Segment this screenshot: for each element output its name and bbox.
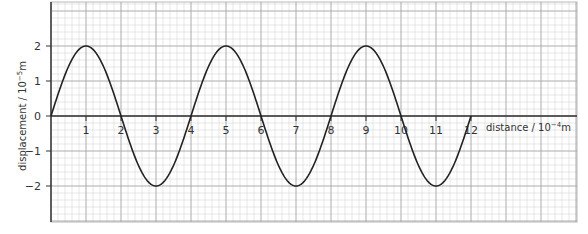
y-axis-title: displacement / 10−5m: [16, 61, 28, 171]
x-axis-title: distance / 10−4m: [486, 121, 571, 133]
y-tick-label: 2: [34, 40, 41, 53]
x-tick-label: 11: [429, 124, 443, 137]
x-tick-label: 1: [83, 124, 90, 137]
axes: [51, 2, 577, 222]
x-tick-label: 9: [363, 124, 370, 137]
wave-chart: 123456789101112210−1−2 distance / 10−4m …: [0, 0, 588, 234]
y-tick-label: 0: [34, 110, 41, 123]
graph-paper-grid: [51, 2, 577, 222]
x-tick-label: 5: [223, 124, 230, 137]
x-tick-label: 3: [153, 124, 160, 137]
y-tick-label: −2: [25, 180, 41, 193]
x-tick-label: 7: [293, 124, 300, 137]
y-tick-label: 1: [34, 75, 41, 88]
